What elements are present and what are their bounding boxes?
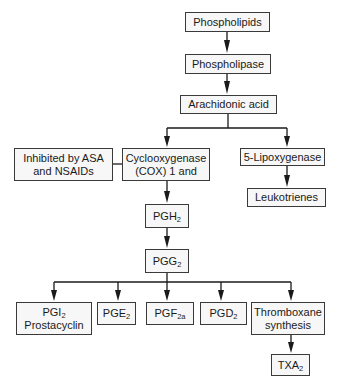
node-label-line2: Prostacyclin (24, 319, 83, 332)
node-label-line1: PGI2 (42, 306, 65, 319)
node-label: PGE2 (103, 307, 130, 320)
node-leukotrienes: Leukotrienes (247, 188, 326, 207)
node-pgd2: PGD2 (200, 302, 247, 325)
node-label: PGD2 (209, 307, 237, 320)
node-label-line2: synthesis (265, 319, 311, 332)
node-pgi2-prostacyclin: PGI2 Prostacyclin (16, 302, 92, 335)
node-5-lipoxygenase: 5-Lipoxygenase (240, 148, 325, 166)
node-inhibited-by-asa-nsaids: Inhibited by ASA and NSAIDs (14, 148, 113, 181)
node-label-line2: and NSAIDs (33, 165, 94, 178)
node-arachidonic-acid: Arachidonic acid (180, 95, 277, 114)
node-label-line1: Cyclooxygenase (126, 152, 207, 165)
node-phospholipase: Phospholipase (185, 54, 271, 74)
node-label: Phospholipase (192, 58, 264, 71)
node-label: PGH2 (153, 210, 181, 223)
node-label: Leukotrienes (255, 191, 318, 204)
node-cyclooxygenase: Cyclooxygenase (COX) 1 and (122, 148, 210, 181)
node-pge2: PGE2 (97, 302, 136, 325)
node-pgf2a: PGF2a (146, 302, 194, 325)
node-thromboxane-synthesis: Thromboxane synthesis (251, 302, 325, 335)
node-pgg2: PGG2 (145, 249, 189, 273)
node-label: Phospholipids (193, 16, 262, 29)
node-txa2: TXA2 (271, 354, 310, 376)
node-label-line1: Thromboxane (254, 306, 322, 319)
node-label: PGG2 (153, 255, 182, 268)
node-label: TXA2 (278, 359, 304, 372)
node-label: PGF2a (155, 307, 186, 320)
node-label: 5-Lipoxygenase (244, 151, 322, 164)
node-label-line1: Inhibited by ASA (23, 152, 104, 165)
node-label: Arachidonic acid (188, 98, 269, 111)
node-label-line2: (COX) 1 and (135, 165, 197, 178)
node-pgh2: PGH2 (145, 204, 189, 228)
node-phospholipids: Phospholipids (185, 12, 270, 32)
